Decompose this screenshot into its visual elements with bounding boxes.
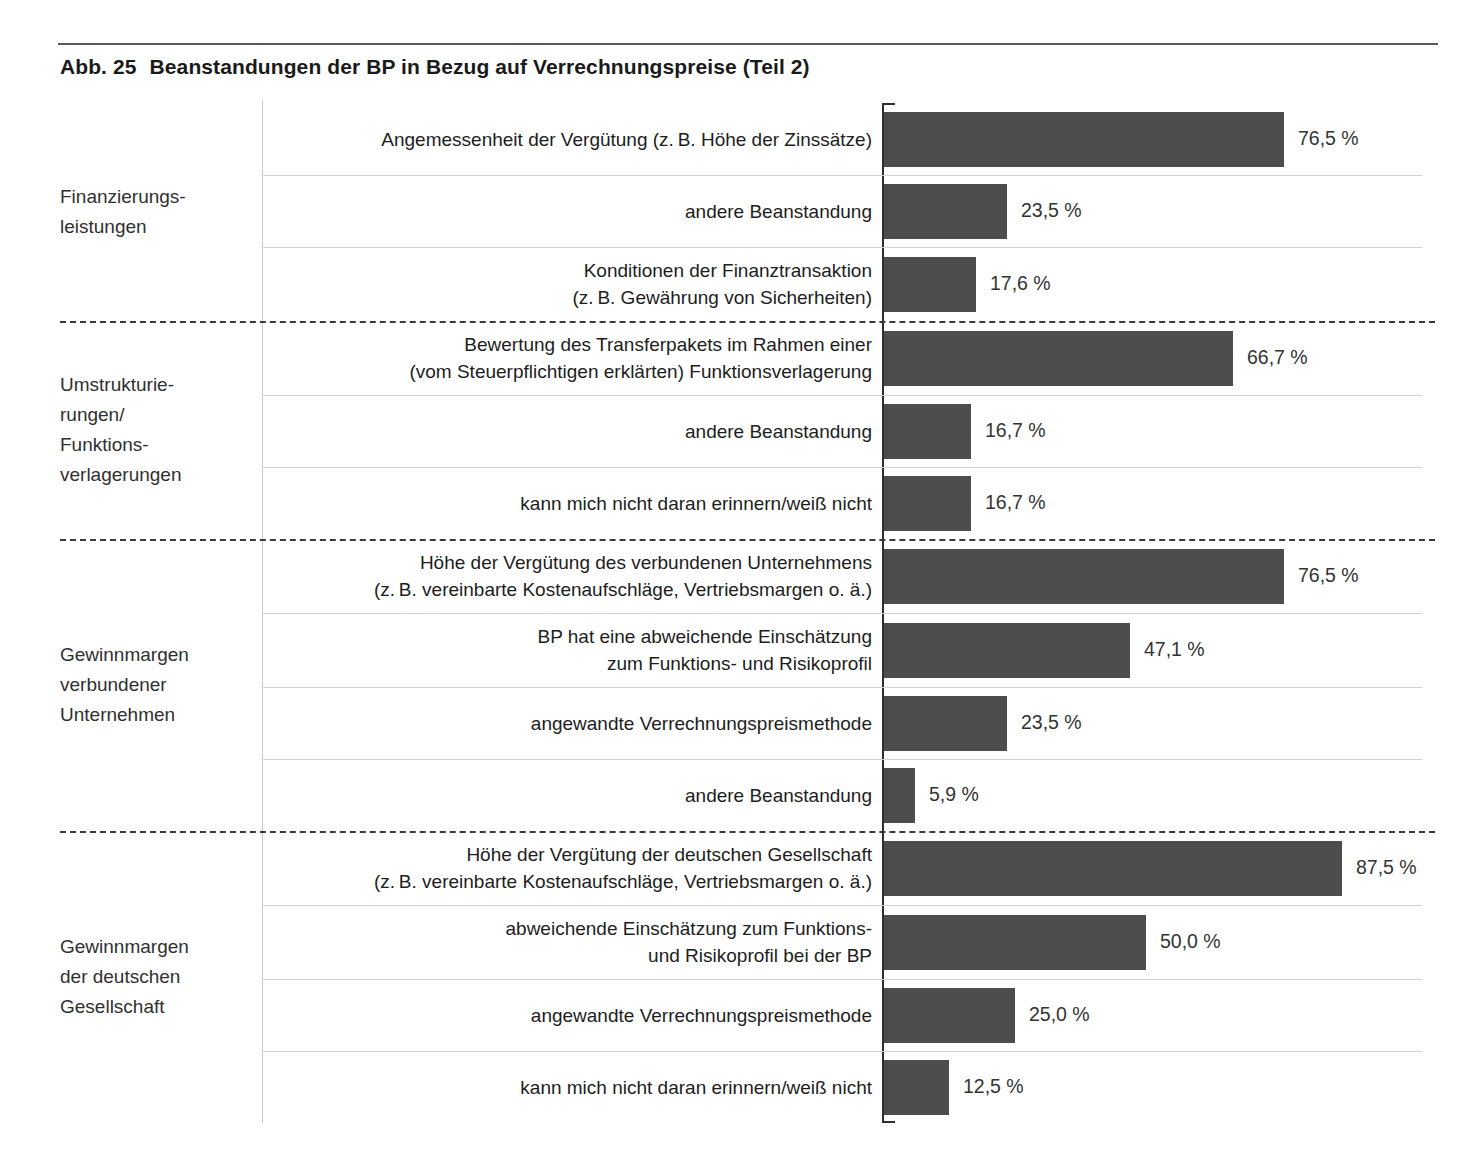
bar-category-label-line: Bewertung des Transferpakets im Rahmen e…	[262, 331, 872, 358]
group-label-line: Gewinnmargen	[60, 640, 255, 670]
bar-category-label-line: Konditionen der Finanztransaktion	[262, 257, 872, 284]
bar	[884, 549, 1284, 604]
bar-category-label-line: (vom Steuerpflichtigen erklärten) Funkti…	[262, 358, 872, 385]
bar-category-label-line: zum Funktions- und Risikoprofil	[262, 650, 872, 677]
bar-category-label: kann mich nicht daran erinnern/weiß nich…	[262, 490, 872, 517]
chart-row: Höhe der Vergütung der deutschen Gesells…	[262, 831, 1468, 905]
bar	[884, 184, 1007, 239]
group-label-line: Funktions-	[60, 430, 255, 460]
bar-category-label-line: (z. B. vereinbarte Kostenaufschläge, Ver…	[262, 576, 872, 603]
group-label-line: Finanzierungs-	[60, 182, 255, 212]
bar-category-label: andere Beanstandung	[262, 198, 872, 225]
group-label-line: Gewinnmargen	[60, 932, 255, 962]
chart-row: angewandte Verrechnungspreismethode25,0 …	[262, 979, 1468, 1051]
bar	[884, 915, 1146, 970]
group-label-line: rungen/	[60, 400, 255, 430]
group-separator	[60, 321, 1435, 323]
chart-row: andere Beanstandung23,5 %	[262, 175, 1468, 247]
group-label: Umstrukturie-rungen/Funktions-verlagerun…	[60, 370, 255, 490]
bar-category-label: andere Beanstandung	[262, 782, 872, 809]
bar	[884, 841, 1342, 896]
bar-category-label-line: andere Beanstandung	[262, 418, 872, 445]
chart-row: Konditionen der Finanztransaktion(z. B. …	[262, 247, 1468, 321]
bar-value-label: 76,5 %	[1298, 564, 1359, 587]
bar	[884, 476, 971, 531]
chart-row: kann mich nicht daran erinnern/weiß nich…	[262, 1051, 1468, 1123]
bar-value-label: 5,9 %	[929, 783, 979, 806]
bar	[884, 988, 1015, 1043]
bar-category-label: Angemessenheit der Vergütung (z. B. Höhe…	[262, 126, 872, 153]
bar-category-label: Konditionen der Finanztransaktion(z. B. …	[262, 257, 872, 311]
bar-category-label-line: Höhe der Vergütung der deutschen Gesells…	[262, 841, 872, 868]
bar-value-label: 50,0 %	[1160, 930, 1221, 953]
bar-value-label: 87,5 %	[1356, 856, 1417, 879]
group-label-line: der deutschen	[60, 962, 255, 992]
bar-category-label-line: andere Beanstandung	[262, 782, 872, 809]
group-label: Finanzierungs-leistungen	[60, 182, 255, 242]
bar-category-label: Höhe der Vergütung der deutschen Gesells…	[262, 841, 872, 895]
bar-value-label: 16,7 %	[985, 419, 1046, 442]
bar-value-label: 17,6 %	[990, 272, 1051, 295]
bar-category-label: Höhe der Vergütung des verbundenen Unter…	[262, 549, 872, 603]
chart-row: andere Beanstandung16,7 %	[262, 395, 1468, 467]
bar	[884, 257, 976, 312]
bar-chart: Angemessenheit der Vergütung (z. B. Höhe…	[0, 0, 1468, 1154]
bar	[884, 623, 1130, 678]
bar-category-label: andere Beanstandung	[262, 418, 872, 445]
bar-category-label-line: angewandte Verrechnungspreismethode	[262, 1002, 872, 1029]
bar-value-label: 12,5 %	[963, 1075, 1024, 1098]
bar-value-label: 76,5 %	[1298, 127, 1359, 150]
bar	[884, 1060, 949, 1115]
bar-category-label: abweichende Einschätzung zum Funktions-u…	[262, 915, 872, 969]
bar-value-label: 23,5 %	[1021, 199, 1082, 222]
group-label: GewinnmargenverbundenerUnternehmen	[60, 640, 255, 730]
group-label-line: Unternehmen	[60, 700, 255, 730]
bar-category-label-line: (z. B. vereinbarte Kostenaufschläge, Ver…	[262, 868, 872, 895]
bar-value-label: 66,7 %	[1247, 346, 1308, 369]
bar-category-label: BP hat eine abweichende Einschätzungzum …	[262, 623, 872, 677]
group-separator	[60, 831, 1435, 833]
bar-category-label-line: angewandte Verrechnungspreismethode	[262, 710, 872, 737]
bar	[884, 331, 1233, 386]
bar-category-label: kann mich nicht daran erinnern/weiß nich…	[262, 1074, 872, 1101]
bar-category-label-line: Angemessenheit der Vergütung (z. B. Höhe…	[262, 126, 872, 153]
bar-value-label: 25,0 %	[1029, 1003, 1090, 1026]
bar-category-label: angewandte Verrechnungspreismethode	[262, 710, 872, 737]
bar-category-label-line: abweichende Einschätzung zum Funktions-	[262, 915, 872, 942]
chart-row: andere Beanstandung5,9 %	[262, 759, 1468, 831]
bar-category-label-line: und Risikoprofil bei der BP	[262, 942, 872, 969]
bar-category-label-line: kann mich nicht daran erinnern/weiß nich…	[262, 1074, 872, 1101]
bar-value-label: 47,1 %	[1144, 638, 1205, 661]
group-label-line: verbundener	[60, 670, 255, 700]
bar	[884, 696, 1007, 751]
bar-value-label: 16,7 %	[985, 491, 1046, 514]
chart-row: Angemessenheit der Vergütung (z. B. Höhe…	[262, 103, 1468, 175]
bar	[884, 768, 915, 823]
group-label-line: Umstrukturie-	[60, 370, 255, 400]
bar-category-label: Bewertung des Transferpakets im Rahmen e…	[262, 331, 872, 385]
chart-row: angewandte Verrechnungspreismethode23,5 …	[262, 687, 1468, 759]
bar-category-label-line: Höhe der Vergütung des verbundenen Unter…	[262, 549, 872, 576]
bar	[884, 112, 1284, 167]
chart-row: BP hat eine abweichende Einschätzungzum …	[262, 613, 1468, 687]
group-label-line: verlagerungen	[60, 460, 255, 490]
group-label-line: Gesellschaft	[60, 992, 255, 1022]
bar-category-label: angewandte Verrechnungspreismethode	[262, 1002, 872, 1029]
chart-row: Höhe der Vergütung des verbundenen Unter…	[262, 539, 1468, 613]
group-label-line: leistungen	[60, 212, 255, 242]
group-separator	[60, 539, 1435, 541]
bar-category-label-line: (z. B. Gewährung von Sicherheiten)	[262, 284, 872, 311]
bar-category-label-line: BP hat eine abweichende Einschätzung	[262, 623, 872, 650]
chart-row: Bewertung des Transferpakets im Rahmen e…	[262, 321, 1468, 395]
bar	[884, 404, 971, 459]
group-label: Gewinnmargender deutschenGesellschaft	[60, 932, 255, 1022]
chart-row: abweichende Einschätzung zum Funktions-u…	[262, 905, 1468, 979]
bar-category-label-line: andere Beanstandung	[262, 198, 872, 225]
bar-value-label: 23,5 %	[1021, 711, 1082, 734]
chart-row: kann mich nicht daran erinnern/weiß nich…	[262, 467, 1468, 539]
bar-category-label-line: kann mich nicht daran erinnern/weiß nich…	[262, 490, 872, 517]
